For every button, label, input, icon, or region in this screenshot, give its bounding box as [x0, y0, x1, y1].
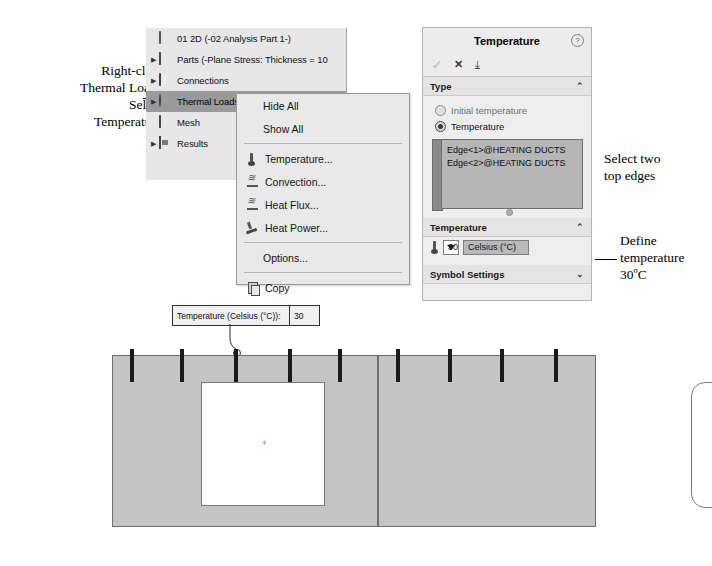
selection-box-wrapper[interactable]: Edge<1>@HEATING DUCTS Edge<2>@HEATING DU…: [432, 139, 583, 209]
panel-title: Temperature: [474, 35, 540, 47]
annotation-line-3: 30ºC: [620, 266, 708, 283]
assembly-icon: [159, 32, 174, 45]
temperature-unit-select[interactable]: Celsius (°C): [463, 240, 529, 255]
property-manager-toolbar[interactable]: ✓ ✕ ⤓: [423, 53, 591, 77]
menu-item-show-all[interactable]: Show All: [237, 117, 409, 140]
radio-button-selected-icon[interactable]: [435, 121, 446, 132]
tree-item-label: Thermal Loads: [177, 96, 239, 107]
radio-initial-temperature[interactable]: Initial temperature: [423, 102, 591, 118]
chevron-up-icon[interactable]: ⌃: [576, 81, 584, 91]
tree-item-connections[interactable]: ▶ Connections: [146, 70, 346, 91]
menu-item-copy[interactable]: Copy: [237, 276, 409, 299]
temperature-symbol-tick: [500, 349, 504, 382]
menu-item-label: Temperature...: [265, 153, 333, 165]
temperature-symbol-tick: [234, 349, 238, 382]
tree-item-label: Mesh: [177, 117, 200, 128]
menu-separator: [244, 272, 402, 273]
annotation-line-1: Define: [620, 232, 708, 249]
temperature-symbol-tick: [130, 349, 134, 382]
resize-grip-handle[interactable]: [506, 209, 513, 216]
thermal-loads-context-menu[interactable]: Hide All Show All Temperature... Convect…: [236, 93, 410, 285]
select-edges-annotation: Select two top edges: [604, 150, 704, 184]
temperature-symbol-tick: [554, 349, 558, 382]
selected-entities-list[interactable]: Edge<1>@HEATING DUCTS Edge<2>@HEATING DU…: [441, 139, 583, 209]
callout-leader-line: [228, 324, 248, 352]
temperature-symbol-tick: [180, 349, 184, 382]
menu-item-options[interactable]: Options...: [237, 246, 409, 269]
left-annotation-line-3: Select: [10, 96, 162, 113]
radio-temperature[interactable]: Temperature: [423, 118, 591, 134]
menu-separator: [244, 242, 402, 243]
temperature-property-manager[interactable]: Temperature ? ✓ ✕ ⤓ Type ⌃ Initial tempe…: [422, 27, 592, 301]
menu-item-heat-flux[interactable]: Heat Flux...: [237, 193, 409, 216]
connections-icon: [159, 74, 174, 87]
tree-item-label: 01 2D (-02 Analysis Part 1-): [177, 33, 291, 44]
plate-right[interactable]: [378, 355, 596, 527]
chevron-up-icon[interactable]: ⌃: [576, 222, 584, 232]
menu-item-label: Convection...: [265, 176, 326, 188]
temperature-symbol-tick: [448, 349, 452, 382]
radio-button-icon[interactable]: [435, 105, 446, 116]
chevron-down-icon[interactable]: ⌄: [576, 269, 584, 279]
expand-arrow-icon[interactable]: ▶: [148, 140, 159, 147]
annotation-line-2: temperature: [620, 249, 708, 266]
menu-item-temperature[interactable]: Temperature...: [237, 147, 409, 170]
expand-arrow-icon[interactable]: ▶: [148, 77, 159, 84]
heat-power-icon: [245, 221, 261, 235]
list-item[interactable]: Edge<2>@HEATING DUCTS: [447, 157, 582, 170]
expand-arrow-icon[interactable]: ▶: [148, 56, 159, 63]
cutout-right: [691, 382, 712, 508]
left-annotation-line-1: Right-click: [10, 62, 162, 79]
menu-item-label: Copy: [265, 282, 290, 294]
close-icon[interactable]: ✕: [454, 58, 463, 71]
annotation-line-1: Select two: [604, 150, 704, 167]
cad-model-view[interactable]: +: [112, 355, 596, 527]
menu-item-label: Options...: [263, 252, 308, 264]
menu-item-label: Show All: [263, 123, 303, 135]
callout-label: Temperature (Celsius (°C)):: [173, 311, 289, 321]
property-manager-header: Temperature ?: [423, 28, 591, 53]
tree-item-label: Parts (-Plane Stress: Thickness = 10: [177, 54, 328, 65]
tree-item-label: Connections: [177, 75, 229, 86]
define-temperature-annotation: Define temperature 30ºC: [620, 232, 708, 283]
pin-icon[interactable]: ⤓: [475, 58, 480, 71]
thermometer-icon: [245, 152, 261, 166]
thermal-loads-icon: [159, 95, 174, 108]
left-annotation-line-4: Temperature: [10, 113, 162, 130]
radio-label: Temperature: [451, 121, 504, 132]
type-section-header[interactable]: Type ⌃: [423, 77, 591, 96]
callout-value: 30: [289, 306, 319, 325]
temperature-value-input[interactable]: 30: [443, 240, 459, 255]
section-title: Type: [430, 81, 451, 92]
section-title: Symbol Settings: [430, 269, 504, 280]
symbol-settings-section-header[interactable]: Symbol Settings ⌄: [423, 265, 591, 284]
annotation-line-2: top edges: [604, 167, 704, 184]
mesh-icon: [159, 116, 174, 129]
tree-item-label: Results: [177, 138, 208, 149]
radio-label: Initial temperature: [451, 105, 527, 116]
copy-icon: [245, 281, 261, 295]
results-icon: [159, 137, 174, 150]
menu-item-label: Hide All: [263, 100, 299, 112]
menu-item-label: Heat Power...: [265, 222, 328, 234]
temperature-unit-value: Celsius (°C): [468, 242, 516, 252]
chevron-down-icon[interactable]: [447, 245, 455, 250]
confirm-checkmark-icon[interactable]: ✓: [432, 58, 442, 72]
menu-item-hide-all[interactable]: Hide All: [237, 94, 409, 117]
temperature-value-row[interactable]: 30 Celsius (°C): [423, 237, 591, 257]
thermometer-icon: [430, 241, 439, 254]
define-annotation-leader-line: [595, 259, 617, 260]
heat-flux-icon: [245, 198, 261, 212]
list-item[interactable]: Edge<1>@HEATING DUCTS: [447, 144, 582, 157]
section-title: Temperature: [430, 222, 487, 233]
help-icon[interactable]: ?: [571, 34, 584, 47]
menu-separator: [244, 143, 402, 144]
menu-item-heat-power[interactable]: Heat Power...: [237, 216, 409, 239]
menu-item-convection[interactable]: Convection...: [237, 170, 409, 193]
temperature-symbol-tick: [338, 349, 342, 382]
temperature-callout[interactable]: Temperature (Celsius (°C)): 30: [172, 305, 320, 326]
temperature-section-header[interactable]: Temperature ⌃: [423, 218, 591, 237]
tree-item-assembly[interactable]: 01 2D (-02 Analysis Part 1-): [146, 28, 346, 49]
tree-item-parts[interactable]: ▶ Parts (-Plane Stress: Thickness = 10: [146, 49, 346, 70]
expand-arrow-icon[interactable]: ▶: [148, 98, 159, 105]
